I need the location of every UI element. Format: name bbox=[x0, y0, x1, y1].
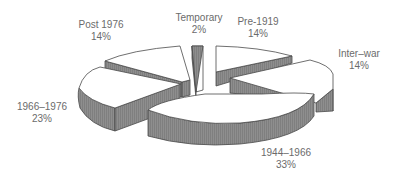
label-1966-1976: 1966–1976 23% bbox=[17, 101, 67, 125]
label-1944-1966-value: 33% bbox=[261, 159, 311, 171]
label-post-1976-name: Post 1976 bbox=[78, 19, 123, 31]
label-1944-1966: 1944–1966 33% bbox=[261, 147, 311, 171]
label-inter-war-name: Inter–war bbox=[338, 48, 380, 60]
label-pre-1919-value: 14% bbox=[237, 28, 278, 40]
label-pre-1919-name: Pre-1919 bbox=[237, 16, 278, 28]
label-inter-war: Inter–war 14% bbox=[338, 48, 380, 72]
label-post-1976-value: 14% bbox=[78, 31, 123, 43]
label-inter-war-value: 14% bbox=[338, 60, 380, 72]
label-pre-1919: Pre-1919 14% bbox=[237, 16, 278, 40]
slice-1944-1966 bbox=[148, 93, 314, 145]
label-1966-1976-name: 1966–1976 bbox=[17, 101, 67, 113]
label-temporary-name: Temporary bbox=[175, 12, 222, 24]
label-temporary-value: 2% bbox=[175, 24, 222, 36]
label-temporary: Temporary 2% bbox=[175, 12, 222, 36]
label-1944-1966-name: 1944–1966 bbox=[261, 147, 311, 159]
slice-temporary bbox=[192, 46, 203, 98]
label-post-1976: Post 1976 14% bbox=[78, 19, 123, 43]
label-1966-1976-value: 23% bbox=[17, 113, 67, 125]
